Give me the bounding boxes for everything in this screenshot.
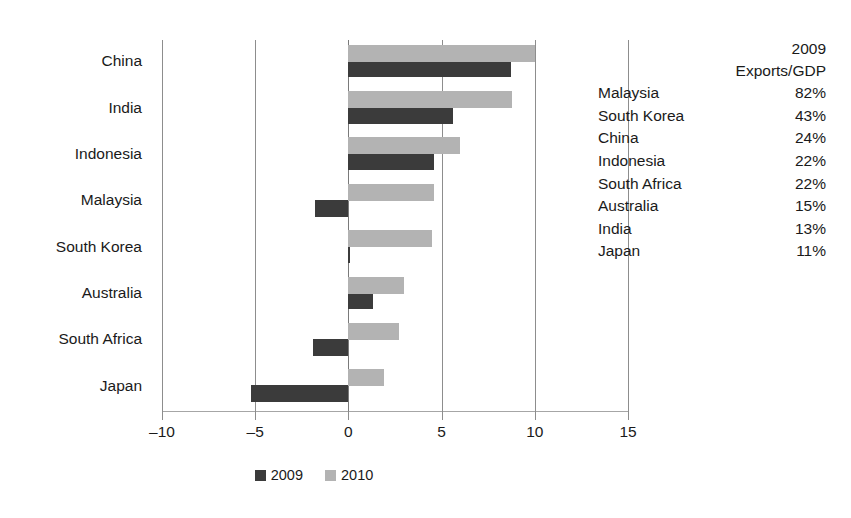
category-label: China xyxy=(102,53,143,69)
table-row: China24% xyxy=(598,127,838,150)
bar-group xyxy=(162,133,628,179)
table-cell-value: 82% xyxy=(780,82,826,105)
category-label: Japan xyxy=(100,378,142,394)
table-cell-country: Australia xyxy=(598,195,658,218)
bar-2009-china xyxy=(348,60,510,77)
bar-group xyxy=(162,40,628,86)
bar-group xyxy=(162,272,628,318)
table-cell-value: 22% xyxy=(780,173,826,196)
table-cell-country: Japan xyxy=(598,240,640,263)
table-row: Japan11% xyxy=(598,240,838,263)
table-cell-value: 22% xyxy=(780,150,826,173)
table-row: South Korea43% xyxy=(598,105,838,128)
legend-swatch-icon xyxy=(325,470,336,481)
table-row: India13% xyxy=(598,218,838,241)
table-cell-country: Indonesia xyxy=(598,150,665,173)
bar-2009-australia xyxy=(348,292,372,309)
bar-2009-malaysia xyxy=(315,200,349,217)
table-body: Malaysia82%South Korea43%China24%Indones… xyxy=(598,82,838,263)
x-axis-tick-label: –5 xyxy=(247,424,264,440)
x-axis-tick xyxy=(535,411,536,420)
x-axis-tick xyxy=(628,411,629,420)
table-cell-country: South Africa xyxy=(598,173,682,196)
table-cell-country: China xyxy=(598,127,639,150)
grouped-bar-chart-figure: ChinaIndiaIndonesiaMalaysiaSouth KoreaAu… xyxy=(0,0,851,518)
bar-2010-malaysia xyxy=(348,184,434,201)
legend-label: 2009 xyxy=(271,468,303,483)
table-cell-value: 24% xyxy=(780,127,826,150)
table-row: South Africa22% xyxy=(598,173,838,196)
table-cell-value: 13% xyxy=(780,218,826,241)
legend-item-2010[interactable]: 2010 xyxy=(325,468,373,483)
x-axis-tick xyxy=(255,411,256,420)
bar-2010-australia xyxy=(348,277,404,294)
bar-2009-south-korea xyxy=(348,246,350,263)
bar-2010-india xyxy=(348,91,512,108)
table-header-year: 2009 xyxy=(598,38,838,60)
legend-label: 2010 xyxy=(341,468,373,483)
bar-2010-japan xyxy=(348,369,383,386)
table-header-metric: Exports/GDP xyxy=(598,60,838,82)
x-axis-tick-label: –10 xyxy=(149,424,175,440)
bar-2009-south-africa xyxy=(313,339,348,356)
x-axis-tick-label: 5 xyxy=(437,424,446,440)
table-cell-country: South Korea xyxy=(598,105,684,128)
bar-group xyxy=(162,179,628,225)
bar-2010-south-africa xyxy=(348,323,398,340)
x-axis: –10–5051015 xyxy=(162,411,628,451)
category-label: Malaysia xyxy=(81,192,142,208)
bar-2010-south-korea xyxy=(348,230,432,247)
chart-legend: 20092010 xyxy=(0,468,628,483)
table-cell-value: 11% xyxy=(780,240,826,263)
x-axis-tick-label: 10 xyxy=(526,424,543,440)
table-row: Malaysia82% xyxy=(598,82,838,105)
x-axis-tick xyxy=(162,411,163,420)
table-cell-value: 15% xyxy=(780,195,826,218)
table-cell-country: India xyxy=(598,218,632,241)
plot-area xyxy=(162,40,628,411)
x-axis-tick xyxy=(442,411,443,420)
bar-2009-japan xyxy=(251,385,348,402)
legend-swatch-icon xyxy=(255,470,266,481)
category-label: Indonesia xyxy=(75,146,142,162)
bar-group xyxy=(162,86,628,132)
exports-gdp-table: 2009 Exports/GDP Malaysia82%South Korea4… xyxy=(598,38,838,263)
category-label: South Africa xyxy=(58,331,142,347)
category-label: South Korea xyxy=(56,239,142,255)
bar-2010-indonesia xyxy=(348,137,460,154)
x-axis-tick-label: 0 xyxy=(344,424,353,440)
bar-2009-indonesia xyxy=(348,153,434,170)
bar-group xyxy=(162,365,628,411)
bar-2009-india xyxy=(348,107,452,124)
table-cell-value: 43% xyxy=(780,105,826,128)
table-row: Australia15% xyxy=(598,195,838,218)
category-label: India xyxy=(108,100,142,116)
bar-group xyxy=(162,226,628,272)
bar-group xyxy=(162,318,628,364)
x-axis-tick-label: 15 xyxy=(619,424,636,440)
bar-2010-china xyxy=(348,45,534,62)
category-label: Australia xyxy=(82,285,142,301)
category-axis-labels: ChinaIndiaIndonesiaMalaysiaSouth KoreaAu… xyxy=(0,38,152,410)
legend-item-2009[interactable]: 2009 xyxy=(255,468,303,483)
table-row: Indonesia22% xyxy=(598,150,838,173)
x-axis-tick xyxy=(348,411,349,420)
table-cell-country: Malaysia xyxy=(598,82,659,105)
